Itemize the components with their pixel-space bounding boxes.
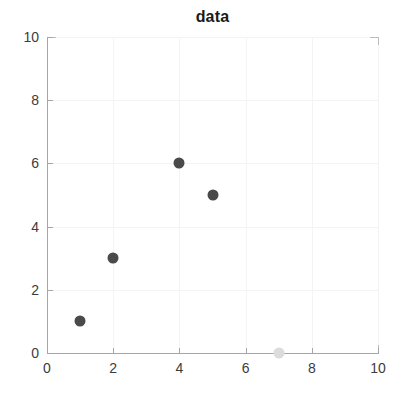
scatter-point (108, 253, 119, 264)
gridline-vertical (312, 37, 313, 353)
axis-corner-stub-top-right-vertical (378, 37, 379, 45)
gridline-vertical (378, 37, 379, 353)
gridline-horizontal (47, 227, 378, 228)
x-tick-label: 2 (93, 360, 133, 376)
x-tick-label: 10 (358, 360, 394, 376)
y-tick-label: 10 (5, 29, 39, 45)
gridline-vertical (179, 37, 180, 353)
x-tick-mark (312, 348, 313, 353)
y-tick-mark (48, 290, 53, 291)
gridline-horizontal (47, 163, 378, 164)
x-tick-mark (378, 348, 379, 353)
y-tick-mark (48, 163, 53, 164)
gridline-vertical (113, 37, 114, 353)
scatter-point (207, 190, 218, 201)
figure-canvas: data 0246810 0246810 (0, 0, 394, 400)
gridline-horizontal (47, 37, 378, 38)
x-tick-label: 4 (159, 360, 199, 376)
scatter-point (273, 348, 284, 359)
x-axis-line (47, 353, 379, 354)
y-tick-mark (48, 227, 53, 228)
y-tick-label: 0 (5, 345, 39, 361)
y-tick-mark (48, 353, 53, 354)
y-tick-label: 4 (5, 219, 39, 235)
x-tick-mark (113, 348, 114, 353)
y-axis-line (47, 37, 48, 354)
x-tick-label: 0 (27, 360, 67, 376)
scatter-point (75, 316, 86, 327)
x-tick-label: 6 (226, 360, 266, 376)
gridline-vertical (246, 37, 247, 353)
x-tick-mark (179, 348, 180, 353)
y-tick-mark (48, 100, 53, 101)
chart-title: data (47, 8, 378, 26)
x-tick-mark (246, 348, 247, 353)
y-tick-label: 8 (5, 92, 39, 108)
scatter-point (174, 158, 185, 169)
gridline-horizontal (47, 290, 378, 291)
gridline-horizontal (47, 100, 378, 101)
y-tick-mark (48, 37, 53, 38)
y-tick-label: 6 (5, 155, 39, 171)
x-tick-mark (47, 348, 48, 353)
y-tick-label: 2 (5, 282, 39, 298)
x-tick-label: 8 (292, 360, 332, 376)
axis-corner-stub-top-right-horizontal (370, 37, 378, 38)
